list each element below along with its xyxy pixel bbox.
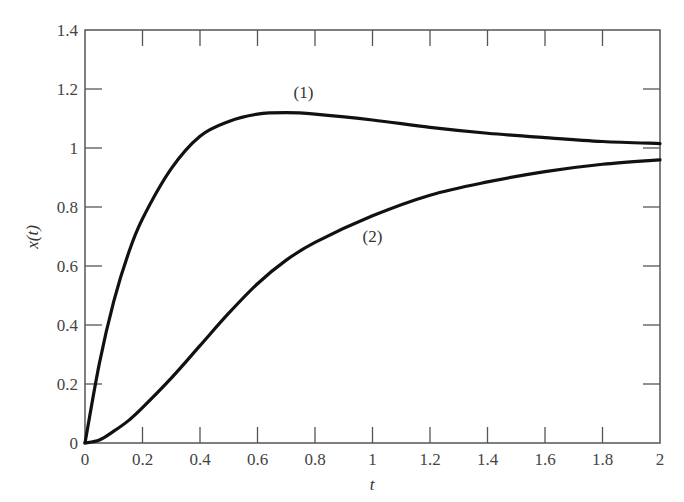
curve-label-1: (1): [294, 83, 314, 102]
curve-2: [85, 160, 660, 443]
y-tick-label: 1.2: [57, 80, 78, 99]
curve-annotations: (1)(2): [294, 83, 383, 247]
y-tick-label: 0.4: [57, 316, 79, 335]
x-tick-label: 0: [81, 450, 90, 469]
x-tick-label: 0.6: [247, 450, 268, 469]
x-axis-ticks: 00.20.40.60.811.21.41.61.82: [81, 30, 665, 469]
y-tick-label: 0: [70, 434, 79, 453]
y-tick-label: 1.4: [57, 21, 79, 40]
x-tick-label: 1: [368, 450, 377, 469]
x-tick-label: 1.4: [477, 450, 499, 469]
y-tick-label: 0.2: [57, 375, 78, 394]
x-tick-label: 2: [656, 450, 665, 469]
x-tick-label: 1.6: [534, 450, 555, 469]
x-axis-label: t: [370, 475, 376, 494]
curves: [85, 113, 660, 443]
curve-1: [85, 113, 660, 443]
y-axis-label: x(t): [23, 225, 42, 250]
y-tick-label: 0.8: [57, 198, 78, 217]
x-tick-label: 1.8: [592, 450, 613, 469]
y-tick-label: 0.6: [57, 257, 78, 276]
x-tick-label: 0.4: [189, 450, 211, 469]
y-axis-ticks: 00.20.40.60.811.21.4: [57, 21, 660, 453]
x-tick-label: 0.2: [132, 450, 153, 469]
chart: 00.20.40.60.811.21.41.61.82 00.20.40.60.…: [0, 0, 684, 502]
curve-label-2: (2): [363, 227, 383, 246]
x-tick-label: 0.8: [304, 450, 325, 469]
y-tick-label: 1: [70, 139, 79, 158]
x-tick-label: 1.2: [419, 450, 440, 469]
